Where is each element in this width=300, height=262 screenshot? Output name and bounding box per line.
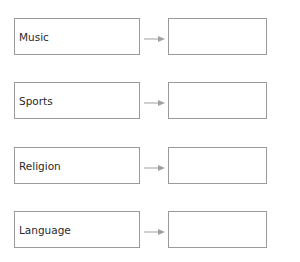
diagram-row: Language [0,211,300,249]
answer-box[interactable] [168,18,267,55]
category-box: Music [14,18,140,55]
diagram-row: Music [0,18,300,56]
category-label: Language [19,224,71,236]
category-box: Sports [14,82,140,119]
category-label: Music [19,31,49,43]
category-box: Religion [14,147,140,184]
answer-box[interactable] [168,82,267,119]
diagram-row: Sports [0,82,300,120]
arrow-right-icon [144,100,165,106]
arrow-right-icon [144,229,165,235]
category-box: Language [14,211,140,248]
arrow-right-icon [144,36,165,42]
diagram-row: Religion [0,147,300,185]
category-label: Sports [19,95,53,107]
answer-box[interactable] [168,147,267,184]
arrow-right-icon [144,165,165,171]
category-label: Religion [19,160,61,172]
answer-box[interactable] [168,211,267,248]
